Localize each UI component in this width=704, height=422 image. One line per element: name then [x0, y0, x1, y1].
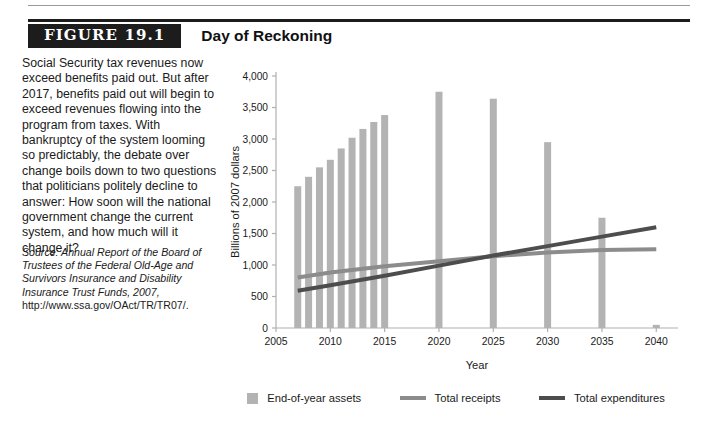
receipts-line-swatch-icon [400, 396, 426, 400]
bar-end-of-year-assets [490, 99, 497, 328]
x-axis-tick-label: 2025 [482, 336, 505, 347]
y-axis-tick-label: 0 [262, 323, 268, 334]
chart-legend: End-of-year assets Total receipts Total … [228, 392, 684, 404]
y-axis-tick-label: 500 [251, 291, 268, 302]
bar-end-of-year-assets [327, 160, 334, 328]
bar-end-of-year-assets [435, 92, 442, 328]
legend-label-receipts: Total receipts [435, 392, 501, 404]
figure-header: FIGURE 19.1 Day of Reckoning [28, 24, 332, 48]
x-axis-tick-label: 2010 [319, 336, 342, 347]
x-axis-tick-label: 2005 [264, 336, 287, 347]
x-axis-tick-label: 2040 [645, 336, 668, 347]
assets-swatch-icon [247, 393, 258, 404]
y-axis-tick-label: 1,500 [243, 228, 269, 239]
figure-number-tag: FIGURE 19.1 [28, 24, 181, 48]
bar-end-of-year-assets [294, 186, 301, 328]
figure-caption: Social Security tax revenues now exceed … [22, 56, 218, 256]
legend-label-expenditures: Total expenditures [574, 392, 665, 404]
social-security-chart: 05001,0001,5002,0002,5003,0003,5004,0002… [228, 56, 690, 386]
x-axis-tick-label: 2035 [590, 336, 613, 347]
x-axis-title: Year [466, 359, 489, 371]
bar-end-of-year-assets [370, 122, 377, 328]
figure-divider-rule [28, 19, 690, 22]
bar-end-of-year-assets [305, 177, 312, 328]
bar-end-of-year-assets [544, 142, 551, 328]
y-axis-tick-label: 4,000 [243, 71, 269, 82]
legend-item-receipts: Total receipts [400, 392, 501, 404]
x-axis-tick-label: 2020 [427, 336, 450, 347]
y-axis-tick-label: 2,500 [243, 165, 269, 176]
y-axis-tick-label: 3,500 [243, 102, 269, 113]
chart-plot-area: 05001,0001,5002,0002,5003,0003,5004,0002… [228, 56, 690, 386]
source-italic-text: Source: Annual Report of the Board of Tr… [22, 246, 201, 298]
y-axis-tick-label: 1,000 [243, 260, 269, 271]
bar-end-of-year-assets [381, 115, 388, 328]
bar-end-of-year-assets [359, 129, 366, 328]
legend-item-expenditures: Total expenditures [539, 392, 665, 404]
figure-title: Day of Reckoning [201, 27, 332, 45]
legend-item-assets: End-of-year assets [247, 392, 361, 404]
bar-end-of-year-assets [316, 167, 323, 328]
y-axis-tick-label: 3,000 [243, 134, 269, 145]
y-axis-title: Billions of 2007 dollars [229, 146, 241, 258]
x-axis-tick-label: 2030 [536, 336, 559, 347]
source-url-text: http://www.ssa.gov/OAct/TR/TR07/. [22, 299, 189, 311]
bar-end-of-year-assets [338, 148, 345, 328]
bar-end-of-year-assets [653, 325, 660, 328]
x-axis-tick-label: 2015 [373, 336, 396, 347]
bar-end-of-year-assets [349, 138, 356, 328]
page-top-rule [28, 5, 690, 6]
figure-source: Source: Annual Report of the Board of Tr… [22, 246, 220, 312]
expenditures-line-swatch-icon [539, 396, 565, 400]
legend-label-assets: End-of-year assets [267, 392, 361, 404]
y-axis-tick-label: 2,000 [243, 197, 269, 208]
